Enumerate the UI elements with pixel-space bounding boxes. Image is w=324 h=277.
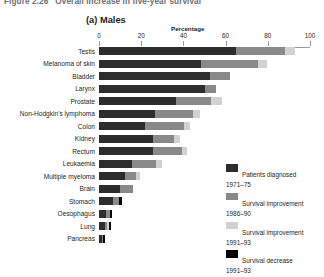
legend-item: Survival improvement1986–90 [226, 192, 322, 218]
category-label: Brain [80, 185, 95, 193]
category-label: Non-Hodgkin's lymphoma [20, 110, 95, 118]
bar-segment [176, 97, 211, 105]
bar-segment [99, 97, 176, 105]
bar-row [99, 85, 216, 93]
x-axis-tick-label: 40 [180, 32, 187, 39]
x-axis-tick-label: 20 [138, 32, 145, 39]
bar-row [99, 135, 180, 143]
bar-segment [258, 60, 266, 68]
bar-segment [182, 147, 186, 155]
legend-label: Survival improvement1991–93 [226, 229, 322, 247]
bar-segment [184, 122, 189, 130]
bar-segment [99, 172, 125, 180]
bar-segment [99, 135, 153, 143]
legend-label: Survival decrease1991–93 [226, 257, 322, 275]
x-axis-tick-mark [99, 41, 100, 46]
x-axis-tick-mark [268, 41, 269, 46]
bar-segment [99, 60, 201, 68]
bar-segment [99, 210, 106, 218]
category-label: Melanoma of skin [43, 60, 95, 68]
bar-segment [201, 60, 258, 68]
x-axis-tick-label: 80 [264, 32, 271, 39]
bar-row [99, 110, 200, 118]
category-label: Pancreas [67, 235, 95, 243]
figure-caption: Figure 2.26Overall increase in five-year… [4, 0, 322, 8]
bar-segment [205, 85, 217, 93]
legend-swatch [226, 193, 238, 201]
category-label: Bladder [72, 73, 95, 81]
category-label: Lung [80, 223, 95, 231]
bar-segment [109, 222, 111, 230]
legend-label: Survival improvement1986–90 [226, 200, 322, 218]
bar-segment [99, 197, 113, 205]
bar-row [99, 47, 295, 55]
figure-caption-text: Overall increase in five-year survival [55, 0, 201, 6]
x-axis-title: Percentage [171, 25, 204, 32]
category-label: Kidney [75, 135, 95, 143]
bar-row [99, 147, 187, 155]
bar-row [99, 222, 111, 230]
bar-segment [99, 122, 145, 130]
x-axis-tick-mark [183, 41, 184, 46]
bar-row [99, 122, 190, 130]
legend-swatch [226, 222, 238, 230]
x-axis-tick-mark [226, 41, 227, 46]
bar-segment [120, 185, 133, 193]
legend-swatch [226, 250, 238, 258]
category-label: Colon [78, 123, 95, 131]
bar-segment [99, 185, 120, 193]
x-axis-tick-mark [141, 41, 142, 46]
bar-segment [99, 147, 153, 155]
bar-row [99, 172, 140, 180]
bar-segment [156, 160, 162, 168]
bar-segment [155, 110, 193, 118]
bar-row [99, 210, 112, 218]
panel-title: (a) Males [86, 15, 126, 25]
bar-segment [210, 72, 230, 80]
bar-segment [99, 85, 205, 93]
bar-segment [236, 47, 285, 55]
bar-segment [145, 122, 184, 130]
bar-row [99, 185, 133, 193]
legend-item: Patients diagnosed1971–75 [226, 163, 322, 189]
category-label: Prostate [70, 98, 95, 106]
legend-item: Survival improvement1991–93 [226, 221, 322, 247]
bar-row [99, 235, 105, 243]
x-axis-tick-label: 0 [97, 32, 101, 39]
bar-segment [211, 97, 223, 105]
category-label: Rectum [72, 148, 95, 156]
figure-number: Figure 2.26 [4, 0, 48, 6]
bar-segment [285, 47, 296, 55]
bar-row [99, 197, 122, 205]
x-axis-tick-mark [310, 41, 311, 46]
bar-segment [193, 110, 200, 118]
bar-segment [153, 135, 174, 143]
bar-segment [99, 47, 236, 55]
x-axis-tick-label: 60 [222, 32, 229, 39]
x-axis-tick-label: 100 [305, 32, 316, 39]
bar-segment [99, 160, 132, 168]
bar-segment [99, 72, 210, 80]
category-label: Multiple myeloma [44, 173, 95, 181]
bar-segment [153, 147, 183, 155]
category-label: Stomach [69, 198, 95, 206]
bar-segment [136, 172, 140, 180]
bar-row [99, 160, 162, 168]
bar-segment [125, 172, 136, 180]
chart-legend: Patients diagnosed1971–75Survival improv… [226, 163, 322, 277]
bar-segment [174, 135, 180, 143]
bar-segment [119, 197, 122, 205]
bar-row [99, 72, 230, 80]
category-label: Oesophagus [58, 210, 95, 218]
bar-segment [110, 210, 113, 218]
legend-swatch [226, 164, 238, 172]
category-label: Leukaemia [63, 160, 95, 168]
legend-item: Survival decrease1991–93 [226, 249, 322, 275]
legend-label: Patients diagnosed1971–75 [226, 171, 322, 189]
bar-segment [103, 235, 105, 243]
bar-row [99, 97, 222, 105]
bar-segment [132, 160, 156, 168]
category-label: Larynx [75, 85, 95, 93]
category-label: Testis [78, 48, 95, 56]
